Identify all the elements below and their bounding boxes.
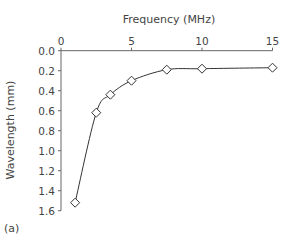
y-tick-label: 1.0 <box>38 145 55 157</box>
y-tick-label: 1.4 <box>38 185 55 197</box>
y-tick-label: 1.2 <box>38 165 55 177</box>
y-tick-label: 1.6 <box>38 205 55 217</box>
data-series <box>71 63 277 207</box>
y-tick-label: 0.6 <box>38 105 55 117</box>
diamond-marker <box>92 108 101 117</box>
y-tick-label: 0.0 <box>38 45 55 57</box>
wavelength-vs-frequency-chart: Frequency (MHz) Wavelength (mm) 0510150.… <box>0 0 294 242</box>
diamond-marker <box>127 76 136 85</box>
x-tick-label: 0 <box>58 35 65 47</box>
y-tick-label: 0.4 <box>38 85 55 97</box>
diamond-marker <box>71 198 80 207</box>
y-axis-title: Wavelength (mm) <box>4 81 17 180</box>
diamond-marker <box>198 64 207 73</box>
diamond-marker <box>162 65 171 74</box>
y-tick-label: 0.8 <box>38 125 55 137</box>
axes: 0510150.00.20.40.60.81.01.21.41.6 <box>38 35 279 217</box>
y-tick-label: 0.2 <box>38 65 55 77</box>
series-line <box>75 68 272 203</box>
diamond-marker <box>268 63 277 72</box>
x-tick-label: 5 <box>128 35 135 47</box>
x-tick-label: 10 <box>195 35 208 47</box>
x-tick-label: 15 <box>266 35 279 47</box>
x-axis-title: Frequency (MHz) <box>123 13 215 26</box>
panel-label: (a) <box>4 222 19 235</box>
